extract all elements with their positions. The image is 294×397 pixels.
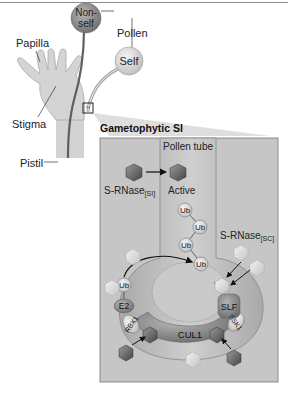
label-papilla: Papilla — [16, 37, 50, 49]
label-stigma: Stigma — [12, 118, 47, 130]
cul1-label: CUL1 — [178, 329, 202, 340]
active-label: Active — [168, 185, 196, 196]
stigma-shape — [17, 49, 84, 120]
label-nonself-2: self — [78, 18, 94, 29]
label-pistil: Pistil — [20, 157, 43, 169]
slf-label: SLF — [221, 302, 238, 312]
ub-4-label: Ub — [196, 260, 207, 269]
ub-2-label: Ub — [195, 223, 206, 232]
pollen-tube-label: Pollen tube — [163, 141, 213, 152]
srnase-si-hex-icon — [126, 164, 142, 181]
ub-donor-label: Ub — [119, 281, 130, 290]
ub-1-label: Ub — [180, 206, 191, 215]
label-nonself-1: Non- — [75, 7, 97, 18]
e2-label: E2 — [119, 301, 130, 311]
ub-3-label: Ub — [181, 241, 192, 250]
tube-tip-cytoplasm — [152, 262, 228, 322]
gametophytic-si-diagram: Papilla Stigma Pistil Pollen Non- self S… — [0, 0, 294, 397]
inset-title: Gametophytic SI — [100, 122, 183, 134]
label-self: Self — [120, 55, 140, 67]
label-pollen: Pollen — [117, 27, 148, 39]
active-srnase-hex-icon — [170, 164, 186, 181]
